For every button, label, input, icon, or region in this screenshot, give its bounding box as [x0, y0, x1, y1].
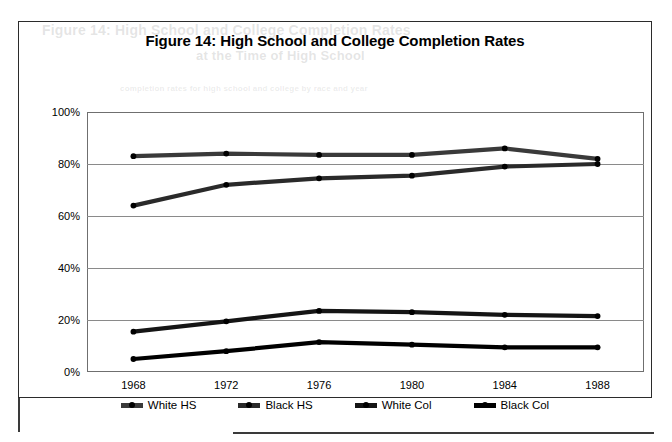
plot-area-wrapper: 0%20%40%60%80%100% 196819721976198019841…	[87, 112, 644, 372]
legend-label: Black Col	[501, 399, 550, 411]
figure-frame: Figure 14: High School and College Compl…	[18, 21, 652, 398]
x-axis-tick-label: 1972	[214, 379, 238, 391]
data-point	[131, 329, 137, 335]
data-series-layer	[87, 112, 644, 372]
legend-label: Black HS	[265, 399, 312, 411]
series-line	[133, 148, 597, 158]
data-point	[595, 344, 601, 350]
data-point	[223, 348, 229, 354]
data-point	[131, 203, 137, 209]
series-line	[133, 342, 597, 359]
legend-item[interactable]: White Col	[355, 399, 432, 411]
data-point	[409, 342, 415, 348]
data-point	[502, 312, 508, 318]
data-point	[223, 318, 229, 324]
legend-label: White HS	[148, 399, 197, 411]
legend-swatch-icon	[121, 403, 143, 408]
series-black-col	[131, 339, 601, 362]
data-point	[502, 146, 508, 152]
data-point	[595, 161, 601, 167]
legend-swatch-icon	[474, 403, 496, 408]
data-point	[409, 173, 415, 179]
legend-item[interactable]: Black Col	[474, 399, 550, 411]
y-axis-tick-label: 60%	[58, 210, 80, 222]
legend-swatch-icon	[238, 403, 260, 408]
data-point	[131, 356, 137, 362]
page-side-rule	[18, 398, 20, 432]
data-point	[316, 175, 322, 181]
x-axis-tick-label: 1976	[307, 379, 331, 391]
data-point	[502, 164, 508, 170]
data-point	[409, 152, 415, 158]
data-point	[595, 313, 601, 319]
data-point	[316, 152, 322, 158]
y-axis-tick-label: 80%	[58, 158, 80, 170]
data-point	[502, 344, 508, 350]
series-white-hs	[131, 146, 601, 162]
y-axis-tick-label: 100%	[52, 106, 80, 118]
data-point	[595, 156, 601, 162]
data-point	[316, 308, 322, 314]
data-point	[131, 153, 137, 159]
chart-title: Figure 14: High School and College Compl…	[19, 32, 651, 49]
series-line	[133, 311, 597, 332]
legend-swatch-icon	[355, 403, 377, 408]
data-point	[223, 151, 229, 157]
series-white-col	[131, 308, 601, 335]
x-axis-tick-label: 1968	[121, 379, 145, 391]
y-axis-tick-label: 0%	[64, 366, 80, 378]
legend-item[interactable]: Black HS	[238, 399, 312, 411]
legend-label: White Col	[382, 399, 432, 411]
x-axis-tick-label: 1980	[400, 379, 424, 391]
y-axis-tick-label: 40%	[58, 262, 80, 274]
data-point	[223, 182, 229, 188]
data-point	[409, 309, 415, 315]
data-point	[316, 339, 322, 345]
x-axis-tick-label: 1988	[585, 379, 609, 391]
series-black-hs	[131, 161, 601, 208]
y-axis-tick-label: 20%	[58, 314, 80, 326]
chart-legend: White HSBlack HSWhite ColBlack Col	[19, 399, 651, 411]
page-bottom-rule	[233, 432, 654, 434]
legend-item[interactable]: White HS	[121, 399, 197, 411]
series-line	[133, 164, 597, 206]
x-axis-tick-label: 1984	[493, 379, 517, 391]
